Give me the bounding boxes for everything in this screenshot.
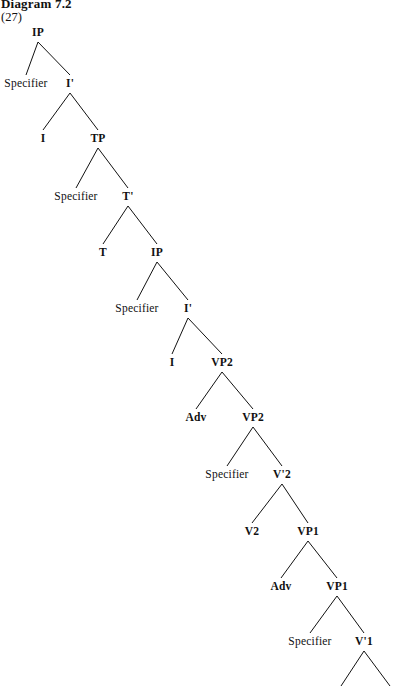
tree-node-specifier: Specifier [54, 190, 97, 202]
tree-edge [252, 484, 282, 523]
tree-edge [98, 148, 128, 188]
syntax-tree-diagram: Diagram 7.2 (27) IPSpecifierI'ITPSpecifi… [0, 0, 401, 686]
tree-edge-clipped [341, 651, 364, 686]
tree-edge [76, 148, 98, 188]
tree-node-vbar2: V'2 [273, 468, 291, 480]
tree-node-vp1: VP1 [326, 580, 348, 592]
tree-node-ibar: I' [66, 77, 74, 89]
tree-edge [188, 318, 222, 354]
tree-node-ip: IP [151, 246, 163, 258]
tree-edge [38, 42, 70, 75]
tree-edge [70, 93, 98, 130]
tree-node-specifier: Specifier [205, 468, 248, 480]
tree-edge [128, 206, 157, 244]
tree-edge [310, 596, 337, 633]
tree-node-tbar: T' [122, 190, 133, 202]
tree-node-specifier: Specifier [4, 77, 47, 89]
tree-edge [281, 541, 308, 578]
tree-node-adv: Adv [270, 580, 291, 592]
tree-edge [308, 541, 337, 578]
tree-node-adv: Adv [185, 411, 206, 423]
tree-node-vp2: VP2 [242, 411, 264, 423]
tree-node-ip: IP [32, 26, 44, 38]
tree-edge [103, 206, 128, 244]
tree-edge-clipped [364, 651, 390, 686]
tree-node-vp2: VP2 [211, 356, 233, 368]
tree-edge [253, 427, 282, 466]
tree-edge [227, 427, 253, 466]
tree-node-specifier: Specifier [288, 635, 331, 647]
tree-edge [137, 262, 157, 300]
tree-node-t: T [99, 246, 107, 258]
tree-node-ibar: I' [184, 302, 192, 314]
tree-node-v2: V2 [245, 525, 259, 537]
tree-node-i: I [170, 356, 175, 368]
tree-edge [157, 262, 188, 300]
tree-node-vp1: VP1 [297, 525, 319, 537]
tree-edge [172, 318, 188, 354]
tree-edge [282, 484, 308, 523]
tree-node-tp: TP [90, 132, 105, 144]
tree-edge [43, 93, 70, 130]
tree-node-vbar1: V'1 [355, 635, 373, 647]
tree-edge [222, 372, 253, 409]
tree-node-specifier: Specifier [115, 302, 158, 314]
tree-edge [26, 42, 38, 75]
tree-edge [196, 372, 222, 409]
tree-edge [337, 596, 364, 633]
tree-node-i: I [41, 132, 46, 144]
